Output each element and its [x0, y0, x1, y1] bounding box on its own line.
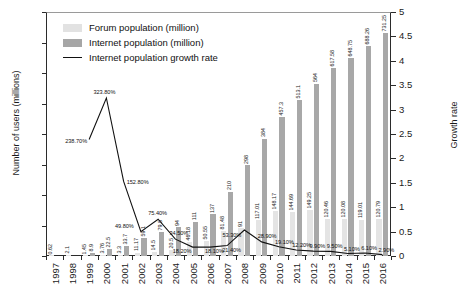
- legend-item-internet: Internet population (million): [63, 35, 218, 50]
- x-axis-tick-mark: [374, 256, 375, 260]
- x-axis-tick-mark: [305, 256, 306, 260]
- x-axis-tick-mark: [150, 256, 151, 260]
- x-axis-tick-label: 2002: [136, 263, 147, 284]
- x-axis-tick-mark: [391, 256, 392, 260]
- legend-label-growth-rate: Internet population growth rate: [89, 52, 218, 63]
- x-axis-tick-mark: [167, 256, 168, 260]
- x-axis-tick-label: 2009: [257, 263, 268, 284]
- x-axis-tick-mark: [219, 256, 220, 260]
- x-axis-tick-label: 2016: [377, 263, 388, 284]
- y-axis-right-tick: 2: [399, 152, 404, 163]
- x-axis-tick-mark: [322, 256, 323, 260]
- y-axis-right-tick-mark: [391, 183, 396, 184]
- growth-rate-value-label: 21.40%: [222, 247, 241, 253]
- x-axis-tick-mark: [184, 256, 185, 260]
- growth-rate-value-label: 53.30%: [222, 232, 241, 238]
- x-axis-tick-label: 2005: [188, 263, 199, 284]
- y-axis-right-tick: 0: [399, 250, 404, 261]
- x-axis-tick-mark: [270, 256, 271, 260]
- x-axis-tick-label: 2015: [360, 263, 371, 284]
- y-axis-right-tick: 2.5: [399, 128, 412, 139]
- x-axis: 1997199819992000200120022003200420052006…: [46, 256, 391, 302]
- x-axis-tick-mark: [201, 256, 202, 260]
- x-axis-tick-mark: [81, 256, 82, 260]
- growth-rate-value-label: 9.50%: [327, 243, 343, 249]
- growth-rate-value-label: 49.80%: [115, 223, 134, 229]
- x-axis-tick-mark: [357, 256, 358, 260]
- y-axis-right-tick-mark: [391, 134, 396, 135]
- x-axis-tick-label: 2003: [153, 263, 164, 284]
- x-axis-tick-mark: [63, 256, 64, 260]
- y-axis-right: 00.511.522.533.544.55: [391, 0, 466, 302]
- x-axis-tick-mark: [98, 256, 99, 260]
- x-axis-tick-label: 1997: [50, 263, 61, 284]
- legend-item-growth-rate: Internet population growth rate: [63, 50, 218, 65]
- growth-rate-value-label: 28.90%: [258, 233, 277, 239]
- y-axis-right-tick: 3.5: [399, 79, 412, 90]
- legend-label-forum: Forum population (million): [89, 22, 199, 33]
- legend-swatch-growth-rate: [63, 57, 82, 58]
- growth-rate-value-label: 323.80%: [93, 89, 115, 95]
- legend-swatch-forum: [63, 24, 82, 32]
- legend-item-forum: Forum population (million): [63, 20, 218, 35]
- y-axis-right-tick: 4.5: [399, 30, 412, 41]
- x-axis-tick-label: 2014: [343, 263, 354, 284]
- x-axis-tick-mark: [253, 256, 254, 260]
- y-axis-right-tick-mark: [391, 232, 396, 233]
- y-axis-right-tick-mark: [391, 85, 396, 86]
- growth-rate-value-label: 19.10%: [275, 239, 294, 245]
- y-axis-left: 0100200300400500600700800: [0, 0, 46, 302]
- x-axis-tick-label: 2008: [239, 263, 250, 284]
- y-axis-right-tick: 3: [399, 104, 404, 115]
- y-axis-right-tick-mark: [391, 207, 396, 208]
- x-axis-tick-label: 2004: [170, 263, 181, 284]
- growth-rate-value-label: 18.10%: [205, 248, 224, 254]
- x-axis-tick-mark: [236, 256, 237, 260]
- y-axis-right-tick: 1.5: [399, 177, 412, 188]
- x-axis-tick-label: 2013: [326, 263, 337, 284]
- y-axis-right-tick: 4: [399, 55, 404, 66]
- y-axis-right-tick-mark: [391, 36, 396, 37]
- y-axis-right-tick-mark: [391, 61, 396, 62]
- growth-rate-value-label: 18.20%: [173, 248, 192, 254]
- x-axis-tick-mark: [132, 256, 133, 260]
- x-axis-tick-label: 2011: [291, 263, 302, 283]
- x-axis-tick-label: 1998: [67, 263, 78, 284]
- chart-root: Number of users (millions) Growth rate 0…: [0, 0, 466, 302]
- x-axis-tick-label: 2000: [101, 263, 112, 284]
- growth-rate-value-label: 152.80%: [127, 179, 149, 185]
- growth-rate-value-label: 6.10%: [361, 245, 377, 251]
- x-axis-tick-mark: [46, 256, 47, 260]
- y-axis-right-tick-mark: [391, 12, 396, 13]
- y-axis-right-tick: 1: [399, 201, 404, 212]
- growth-rate-value-label: 5.10%: [344, 246, 360, 252]
- x-axis-tick-mark: [339, 256, 340, 260]
- x-axis-tick-label: 2007: [222, 263, 233, 284]
- y-axis-right-tick-mark: [391, 158, 396, 159]
- x-axis-tick-label: 1999: [84, 263, 95, 284]
- growth-rate-value-label: 12.20%: [292, 242, 311, 248]
- growth-rate-value-label: 238.70%: [65, 138, 87, 144]
- x-axis-tick-label: 2010: [274, 263, 285, 284]
- x-axis-tick-mark: [115, 256, 116, 260]
- legend-swatch-internet: [63, 39, 82, 47]
- growth-rate-value-label: 75.40%: [148, 210, 167, 216]
- x-axis-tick-label: 2012: [308, 263, 319, 284]
- x-axis-tick-label: 2001: [119, 263, 130, 284]
- legend-label-internet: Internet population (million): [89, 37, 204, 48]
- chart-legend: Forum population (million) Internet popu…: [63, 20, 218, 65]
- growth-rate-value-label: 2.90%: [378, 247, 394, 253]
- growth-rate-value-label: 34.50%: [169, 230, 188, 236]
- x-axis-tick-mark: [288, 256, 289, 260]
- y-axis-right-tick: 5: [399, 6, 404, 17]
- x-axis-tick-label: 2006: [205, 263, 216, 284]
- y-axis-right-tick-mark: [391, 110, 396, 111]
- y-axis-right-tick: 0.5: [399, 226, 412, 237]
- growth-rate-value-label: 9.90%: [309, 243, 325, 249]
